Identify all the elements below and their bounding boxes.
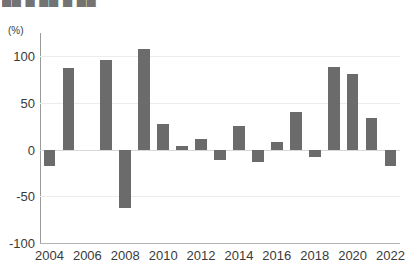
x-tick-label-2010: 2010: [149, 248, 178, 263]
cropped-caption-text: ██ █ ██ █ ██: [2, 0, 96, 6]
x-tick-label-2020: 2020: [338, 248, 367, 263]
bar-2008[interactable]: [119, 150, 131, 209]
x-tick-label-2016: 2016: [262, 248, 291, 263]
y-axis-unit-label: (%): [8, 25, 24, 36]
x-tick-label-2004: 2004: [35, 248, 64, 263]
bar-2013[interactable]: [214, 150, 226, 160]
bar-2015[interactable]: [252, 150, 264, 162]
y-tick-label-0: 0: [28, 142, 35, 157]
bar-2010[interactable]: [157, 124, 169, 149]
bar-2005[interactable]: [63, 68, 75, 149]
bar-2004[interactable]: [44, 150, 56, 166]
y-tick-label-50: 50: [21, 96, 35, 111]
y-tick-label-100: 100: [13, 49, 35, 64]
bar-2007[interactable]: [100, 60, 112, 150]
gridline--100: [40, 243, 400, 244]
x-tick-label-2022: 2022: [376, 248, 405, 263]
x-tick-label-2018: 2018: [300, 248, 329, 263]
y-tick-label--100: -100: [9, 236, 35, 251]
plot-area: 100500-50-100: [40, 33, 400, 243]
bar-series: [40, 33, 400, 243]
bar-2009[interactable]: [138, 49, 150, 150]
x-tick-label-2006: 2006: [73, 248, 102, 263]
cropped-caption-strip: ██ █ ██ █ ██: [0, 0, 407, 9]
bar-2018[interactable]: [309, 150, 321, 157]
bar-2011[interactable]: [176, 146, 188, 150]
y-tick-label--50: -50: [16, 189, 35, 204]
x-tick-label-2012: 2012: [187, 248, 216, 263]
x-tick-label-2014: 2014: [224, 248, 253, 263]
bar-2016[interactable]: [271, 142, 283, 149]
bar-2020[interactable]: [347, 74, 359, 150]
bar-2017[interactable]: [290, 112, 302, 149]
x-axis-ticks: 2004200620082010201220142016201820202022: [40, 248, 400, 270]
bar-2014[interactable]: [233, 126, 245, 149]
bar-2021[interactable]: [366, 118, 378, 150]
bar-2022[interactable]: [385, 150, 397, 166]
bar-2012[interactable]: [195, 139, 207, 149]
x-tick-label-2008: 2008: [111, 248, 140, 263]
bar-2019[interactable]: [328, 67, 340, 150]
chart-page: ██ █ ██ █ ██ (%) 100500-50-100 200420062…: [0, 0, 407, 275]
